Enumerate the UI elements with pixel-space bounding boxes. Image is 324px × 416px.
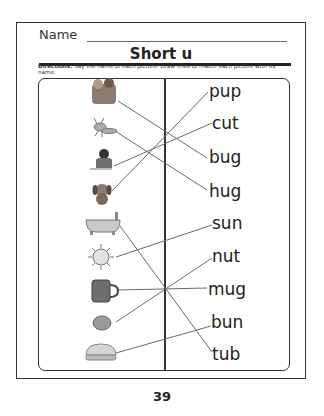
word-bug: bug xyxy=(209,147,241,167)
sun-icon xyxy=(88,244,114,270)
word-nut: nut xyxy=(212,246,240,266)
mug-icon xyxy=(92,280,118,302)
word-tub: tub xyxy=(212,344,240,364)
word-bun: bun xyxy=(211,312,243,332)
family-hug-icon xyxy=(92,78,116,104)
boy-cutting-icon xyxy=(90,149,112,170)
word-cut: cut xyxy=(212,113,239,133)
bathtub-icon xyxy=(86,212,120,235)
word-sun: sun xyxy=(212,213,242,233)
word-hug: hug xyxy=(209,181,241,201)
page-number: 39 xyxy=(0,389,324,404)
bun-icon xyxy=(86,344,116,360)
word-pup: pup xyxy=(209,81,241,101)
puppy-icon xyxy=(93,184,112,205)
word-mug: mug xyxy=(208,279,246,299)
matching-lines xyxy=(0,0,324,416)
nut-icon xyxy=(93,316,111,330)
ant-bug-icon xyxy=(94,118,117,137)
